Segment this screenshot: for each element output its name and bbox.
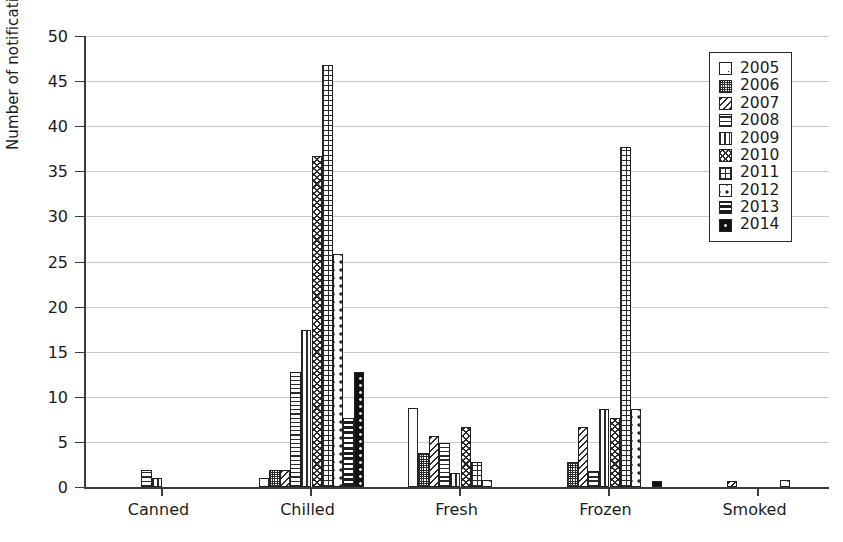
bar-frozen-2008[interactable] — [588, 471, 599, 487]
legend-label: 2008 — [740, 113, 779, 129]
y-tick-label: 25 — [26, 252, 68, 271]
bar-chilled-2006[interactable] — [269, 470, 280, 487]
bar-frozen-2006[interactable] — [567, 462, 578, 487]
bar-group-chilled — [259, 36, 365, 487]
y-axis-title: Number of notifications — [4, 0, 22, 150]
y-tick-label: 50 — [26, 27, 68, 46]
legend-swatch-icon-2008 — [719, 114, 732, 127]
legend-swatch-icon-2011 — [719, 167, 732, 180]
legend-item-2011[interactable]: 2011 — [719, 164, 779, 181]
x-label-smoked: Smoked — [722, 500, 786, 519]
x-tick-mark — [757, 487, 759, 496]
bar-canned-2008[interactable] — [141, 470, 152, 487]
y-tick-label: 45 — [26, 72, 68, 91]
legend-swatch-icon-2014 — [719, 219, 732, 232]
x-label-canned: Canned — [128, 500, 189, 519]
legend-item-2012[interactable]: 2012 — [719, 182, 779, 199]
legend-swatch-icon-2007 — [719, 97, 732, 110]
x-label-chilled: Chilled — [280, 500, 335, 519]
x-axis-line — [84, 487, 829, 489]
bar-fresh-2006[interactable] — [418, 453, 429, 487]
legend-label: 2010 — [740, 148, 779, 164]
legend-swatch-icon-2006 — [719, 80, 732, 93]
legend-item-2014[interactable]: 2014 — [719, 217, 779, 234]
legend-item-2010[interactable]: 2010 — [719, 147, 779, 164]
legend-label: 2005 — [740, 61, 779, 77]
y-tick-label: 5 — [26, 432, 68, 451]
y-tick-label: 15 — [26, 342, 68, 361]
y-tick-label: 30 — [26, 207, 68, 226]
bar-chilled-2013[interactable] — [343, 418, 354, 487]
bar-chilled-2007[interactable] — [280, 470, 291, 487]
y-tick-mark — [75, 171, 84, 172]
x-tick-mark — [459, 487, 461, 496]
bar-group-fresh — [408, 36, 514, 487]
bar-fresh-2005[interactable] — [408, 408, 419, 487]
bar-smoked-2012[interactable] — [780, 480, 791, 487]
bar-frozen-2007[interactable] — [578, 427, 589, 487]
bar-fresh-2011[interactable] — [471, 462, 482, 487]
y-tick-mark — [75, 397, 84, 398]
x-tick-mark — [608, 487, 610, 496]
legend-swatch-icon-2005 — [719, 62, 732, 75]
bar-fresh-2010[interactable] — [461, 427, 472, 487]
legend-swatch-icon-2013 — [719, 201, 732, 214]
bar-frozen-2012[interactable] — [631, 409, 642, 487]
legend-item-2006[interactable]: 2006 — [719, 77, 779, 94]
y-tick-mark — [75, 81, 84, 82]
legend-item-2005[interactable]: 2005 — [719, 60, 779, 77]
legend-swatch-icon-2009 — [719, 132, 732, 145]
bar-fresh-2009[interactable] — [450, 473, 461, 487]
bar-chilled-2014[interactable] — [354, 372, 365, 487]
legend[interactable]: 2005200620072008200920102011201220132014 — [709, 52, 792, 242]
bar-frozen-2009[interactable] — [599, 409, 610, 487]
legend-swatch-icon-2012 — [719, 184, 732, 197]
legend-item-2013[interactable]: 2013 — [719, 199, 779, 216]
y-tick-mark — [75, 307, 84, 308]
y-tick-mark — [75, 262, 84, 263]
bar-chilled-2005[interactable] — [259, 478, 270, 487]
y-tick-mark — [75, 216, 84, 217]
legend-item-2009[interactable]: 2009 — [719, 130, 779, 147]
bar-fresh-2007[interactable] — [429, 436, 440, 487]
y-tick-mark — [75, 352, 84, 353]
y-tick-mark — [75, 126, 84, 127]
x-label-fresh: Fresh — [435, 500, 478, 519]
legend-label: 2011 — [740, 165, 779, 181]
legend-item-2008[interactable]: 2008 — [719, 112, 779, 129]
y-tick-label: 35 — [26, 162, 68, 181]
bar-chilled-2010[interactable] — [312, 156, 323, 487]
y-tick-mark — [75, 442, 84, 443]
y-tick-mark — [75, 36, 84, 37]
x-tick-mark — [161, 487, 163, 496]
legend-swatch-icon-2010 — [719, 149, 732, 162]
y-tick-mark — [75, 487, 84, 488]
y-tick-label: 0 — [26, 478, 68, 497]
bar-chilled-2012[interactable] — [333, 254, 344, 487]
bar-frozen-2010[interactable] — [610, 418, 621, 487]
bar-frozen-2011[interactable] — [620, 147, 631, 487]
y-tick-label: 10 — [26, 387, 68, 406]
bar-chilled-2009[interactable] — [301, 330, 312, 487]
legend-label: 2009 — [740, 131, 779, 147]
x-label-frozen: Frozen — [579, 500, 631, 519]
legend-label: 2014 — [740, 217, 779, 233]
bar-chilled-2011[interactable] — [322, 65, 333, 487]
bar-group-canned — [110, 36, 216, 487]
bar-fresh-2008[interactable] — [439, 443, 450, 487]
bar-group-frozen — [557, 36, 663, 487]
bar-fresh-2012[interactable] — [482, 480, 493, 487]
bar-frozen-2014[interactable] — [652, 481, 663, 487]
y-tick-label: 40 — [26, 117, 68, 136]
legend-label: 2012 — [740, 183, 779, 199]
legend-item-2007[interactable]: 2007 — [719, 95, 779, 112]
bar-chilled-2008[interactable] — [290, 372, 301, 487]
legend-label: 2013 — [740, 200, 779, 216]
legend-label: 2006 — [740, 78, 779, 94]
y-tick-label: 20 — [26, 297, 68, 316]
x-tick-mark — [310, 487, 312, 496]
legend-label: 2007 — [740, 96, 779, 112]
bar-canned-2009[interactable] — [152, 478, 163, 487]
bar-smoked-2007[interactable] — [727, 481, 738, 487]
bar-chart: Number of notifications 0510152025303540… — [0, 0, 843, 542]
